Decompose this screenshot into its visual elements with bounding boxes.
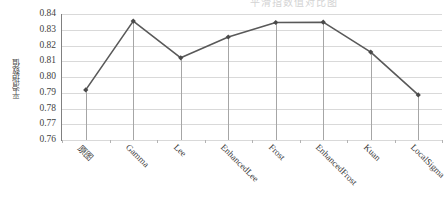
x-tick-label: EnhancedLee [219,142,261,184]
y-tick-label: 0.77 [22,120,56,130]
line-chart: 平滑指数值 0.840.830.820.810.800.790.780.770.… [0,0,447,208]
series-polyline [86,21,419,95]
y-tick-label: 0.83 [22,25,56,35]
x-tick-label: Lee [172,142,189,159]
x-tick-label: Frost [267,142,287,162]
data-point-marker [226,34,231,39]
y-tick-label: 0.76 [22,135,56,145]
x-tick-label: Kuan [362,142,383,163]
y-tick-label: 0.79 [22,88,56,98]
x-tick-label: EnhancedFrost [314,142,359,187]
y-tick-label: 0.78 [22,104,56,114]
x-tick-label: LocalSigma [409,142,447,180]
plot-area [62,14,442,140]
series-line [62,14,442,141]
data-point-marker [273,20,278,25]
y-tick-label: 0.84 [22,9,56,19]
x-tick-label: 原图 [75,142,97,164]
y-axis-tick-labels: 0.840.830.820.810.800.790.780.770.76 [22,0,56,208]
x-axis-tick-labels: 原图GammaLeeEnhancedLeeFrostEnhancedFrostK… [62,142,447,208]
y-tick-label: 0.80 [22,72,56,82]
x-tick-label: Gamma [124,142,151,169]
y-tick-label: 0.81 [22,57,56,67]
y-tick-label: 0.82 [22,41,56,51]
